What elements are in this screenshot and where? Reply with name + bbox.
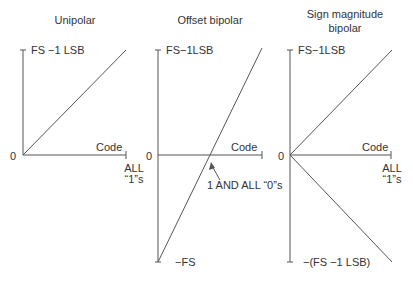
offset-axis-label: Code bbox=[231, 141, 257, 153]
unipolar-end-label-2: “1”s bbox=[122, 173, 146, 185]
signmag-bottom-label: −(FS −1 LSB) bbox=[303, 256, 370, 268]
signmag-title-line1: Sign magnitude bbox=[290, 8, 400, 20]
offset-bottom-label: −FS bbox=[175, 256, 195, 268]
unipolar-transfer-line bbox=[23, 50, 126, 155]
signmag-origin-label: 0 bbox=[278, 150, 284, 162]
signmag-top-label: FS−1LSB bbox=[298, 44, 345, 56]
unipolar-top-label: FS −1 LSB bbox=[31, 44, 85, 56]
unipolar-title: Unipolar bbox=[40, 14, 110, 26]
signmag-axis-label: Code bbox=[362, 141, 388, 153]
offset-title: Offset bipolar bbox=[165, 14, 255, 26]
signmag-end-label-2: “1”s bbox=[378, 173, 406, 185]
signmag-title-line2: bipolar bbox=[290, 22, 400, 34]
unipolar-axis-label: Code bbox=[96, 141, 122, 153]
signmag-positive-line bbox=[290, 50, 392, 155]
unipolar-origin-label: 0 bbox=[10, 150, 16, 162]
offset-top-label: FS−1LSB bbox=[166, 44, 213, 56]
diagram-canvas bbox=[0, 0, 413, 282]
signmag-negative-line bbox=[290, 155, 392, 262]
offset-origin-label: 0 bbox=[146, 150, 152, 162]
offset-annotation: 1 AND ALL “0”s bbox=[207, 179, 282, 191]
